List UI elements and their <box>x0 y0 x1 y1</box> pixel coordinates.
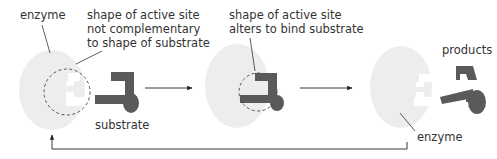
active-site-label-1b: not complementary <box>87 22 200 36</box>
active-site-pointer-1 <box>76 51 102 64</box>
products <box>440 66 486 114</box>
active-site-label-2a: shape of active site <box>229 8 341 22</box>
active-site-label-2b: alters to bind substrate <box>229 22 364 36</box>
stage-1: enzyme shape of active site not compleme… <box>19 8 210 132</box>
products-label: products <box>442 43 492 57</box>
substrate <box>95 72 139 113</box>
enzyme-1 <box>19 50 85 130</box>
stage-3: products enzyme <box>370 43 492 144</box>
enzyme-pointer-1 <box>42 25 50 53</box>
product-1 <box>456 66 477 80</box>
induced-fit-diagram: enzyme shape of active site not compleme… <box>0 0 497 159</box>
enzyme-2 <box>205 44 269 128</box>
enzyme-label-1: enzyme <box>20 8 65 22</box>
enzyme-label-3: enzyme <box>417 130 462 144</box>
active-site-label-1c: to shape of substrate <box>87 36 210 50</box>
active-site-label-1a: shape of active site <box>87 8 199 22</box>
stage-2: shape of active site alters to bind subs… <box>205 8 364 128</box>
recycle-arrow <box>52 135 407 149</box>
substrate-label: substrate <box>95 118 149 132</box>
